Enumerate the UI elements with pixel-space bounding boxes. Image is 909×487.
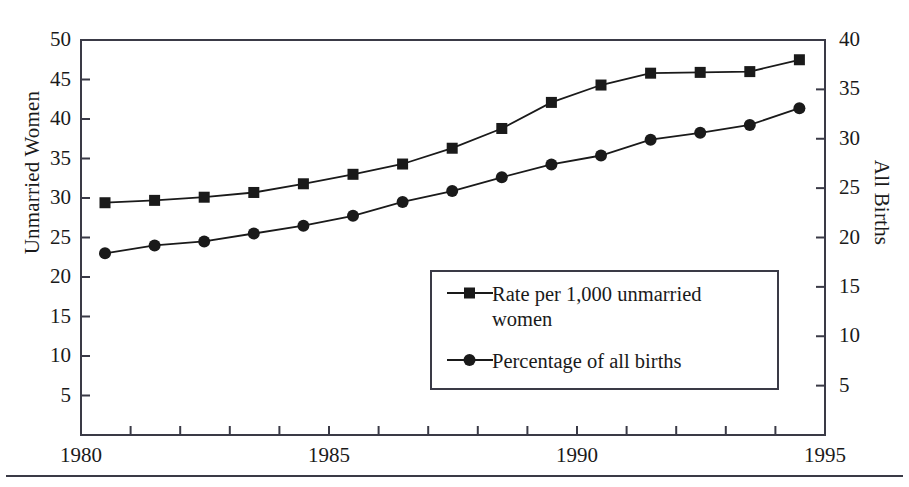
left-axis-tick-45: 45 — [29, 69, 71, 90]
x-axis-tick-1990: 1990 — [537, 445, 617, 466]
right-axis-tick-30: 30 — [839, 128, 881, 149]
right-axis-tick-5: 5 — [839, 375, 881, 396]
right-axis-tick-20: 20 — [839, 227, 881, 248]
legend-label-1: Percentage of all births — [492, 349, 682, 374]
plot-area — [0, 0, 909, 487]
right-axis-tick-40: 40 — [839, 29, 881, 50]
left-axis-tick-30: 30 — [29, 187, 71, 208]
left-axis-tick-15: 15 — [29, 306, 71, 327]
left-axis-tick-10: 10 — [29, 345, 71, 366]
x-axis-tick-1985: 1985 — [289, 445, 369, 466]
footer-rule — [6, 475, 903, 477]
left-axis-tick-25: 25 — [29, 227, 71, 248]
left-axis-tick-5: 5 — [29, 385, 71, 406]
right-axis-tick-15: 15 — [839, 276, 881, 297]
right-axis-tick-25: 25 — [839, 177, 881, 198]
left-axis-tick-35: 35 — [29, 148, 71, 169]
legend-label-0: Rate per 1,000 unmarried women — [492, 282, 701, 332]
right-axis-tick-35: 35 — [839, 78, 881, 99]
x-axis-tick-1980: 1980 — [41, 445, 121, 466]
left-axis-tick-50: 50 — [29, 29, 71, 50]
left-axis-tick-20: 20 — [29, 266, 71, 287]
chart-figure: Unmarried Women All Births 5045403530252… — [0, 0, 909, 487]
left-axis-tick-40: 40 — [29, 108, 71, 129]
right-axis-tick-10: 10 — [839, 325, 881, 346]
x-axis-tick-1995: 1995 — [785, 445, 865, 466]
